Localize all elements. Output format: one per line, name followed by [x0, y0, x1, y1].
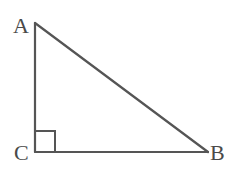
right-angle-marker [35, 131, 55, 152]
right-triangle-diagram: A C B [0, 0, 228, 179]
edge-ab [35, 23, 208, 152]
vertex-label-a: A [13, 13, 29, 38]
vertex-label-c: C [14, 140, 29, 165]
vertex-label-b: B [210, 140, 225, 165]
